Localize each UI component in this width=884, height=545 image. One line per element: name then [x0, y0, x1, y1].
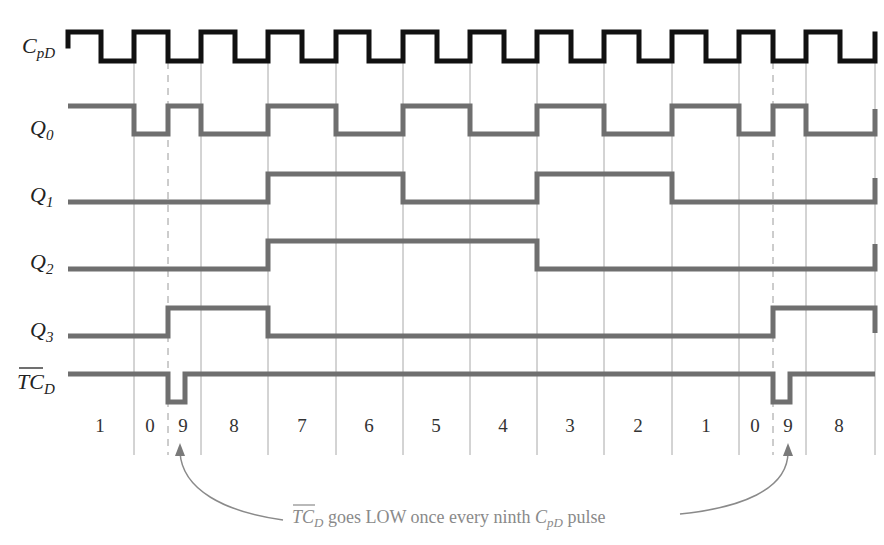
count-label: 9 — [783, 415, 793, 436]
label-q3: Q3 — [30, 317, 53, 345]
label-q2: Q2 — [30, 249, 54, 277]
count-label: 3 — [565, 415, 575, 436]
annotation-text: TCD goes LOW once every ninth CpD pulse — [292, 507, 605, 530]
label-q0: Q0 — [30, 115, 54, 143]
label-tcd: TCD — [17, 369, 55, 397]
waveform-q0 — [68, 106, 875, 134]
count-label: 7 — [297, 415, 307, 436]
count-label: 1 — [701, 415, 711, 436]
arrowhead-right-icon — [783, 443, 793, 456]
waveform-clk — [68, 32, 875, 61]
count-label: 2 — [633, 415, 643, 436]
waveform-tcd — [68, 374, 875, 402]
count-label: 5 — [431, 415, 441, 436]
arrow-left — [180, 452, 283, 520]
arrowhead-left-icon — [175, 443, 185, 456]
count-label: 8 — [229, 415, 239, 436]
label-q1: Q1 — [30, 182, 53, 210]
label-clk: CpD — [22, 33, 55, 61]
count-label: 6 — [364, 415, 374, 436]
count-label: 9 — [178, 415, 188, 436]
count-label: 4 — [498, 415, 508, 436]
timing-diagram: CpD Q0 Q1 Q2 Q3 TCD 1 0 9 8 7 6 5 4 3 2 … — [0, 0, 884, 545]
waveform-q3 — [68, 308, 875, 336]
signal-labels: CpD Q0 Q1 Q2 Q3 TCD — [17, 33, 55, 397]
gridlines — [134, 62, 875, 455]
arrow-right — [680, 452, 788, 514]
count-label: 0 — [750, 415, 760, 436]
waveform-q1 — [68, 174, 875, 202]
count-label: 0 — [145, 415, 155, 436]
waveform-q2 — [68, 241, 875, 269]
count-label: 8 — [834, 415, 844, 436]
count-label: 1 — [95, 415, 105, 436]
